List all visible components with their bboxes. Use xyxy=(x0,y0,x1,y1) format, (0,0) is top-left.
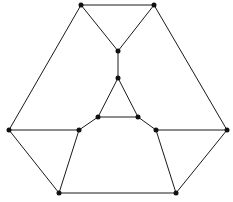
edge-I-K xyxy=(9,130,59,193)
node-I xyxy=(7,128,12,133)
nodes-group xyxy=(7,3,230,196)
edge-D-E xyxy=(98,78,118,117)
node-J xyxy=(225,128,230,133)
node-E xyxy=(96,115,101,120)
node-L xyxy=(174,191,179,196)
node-G xyxy=(77,128,82,133)
edge-H-L xyxy=(156,130,176,193)
node-H xyxy=(154,128,159,133)
node-F xyxy=(136,115,141,120)
edge-G-K xyxy=(59,130,79,193)
edge-B-C xyxy=(118,5,154,51)
node-B xyxy=(152,3,157,8)
edge-A-C xyxy=(81,5,118,51)
node-K xyxy=(57,191,62,196)
node-C xyxy=(116,49,121,54)
graph-diagram xyxy=(0,0,233,202)
edge-A-I xyxy=(9,5,81,130)
node-D xyxy=(116,76,121,81)
node-A xyxy=(79,3,84,8)
edges-group xyxy=(9,5,227,193)
edge-B-J xyxy=(154,5,227,130)
edge-J-L xyxy=(176,130,227,193)
edge-F-H xyxy=(138,117,156,130)
edge-E-G xyxy=(79,117,98,130)
edge-D-F xyxy=(118,78,138,117)
